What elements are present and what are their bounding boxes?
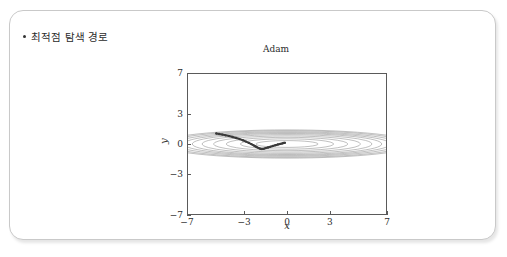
path-step-marker <box>228 135 230 137</box>
slide-card: 최적점 탐색 경로 Adam −7−3037−7−3037 x y <box>9 10 496 240</box>
path-step-marker <box>221 133 223 135</box>
y-tick-mark <box>187 73 191 74</box>
path-step-marker <box>238 138 240 140</box>
path-step-marker <box>274 144 276 146</box>
y-tick-label: 3 <box>165 109 183 119</box>
y-tick-mark <box>187 114 191 115</box>
path-step-marker <box>277 143 279 145</box>
x-axis-label: x <box>187 220 387 231</box>
y-tick-label: −3 <box>165 169 183 179</box>
y-tick-label: −7 <box>165 210 183 220</box>
path-step-marker <box>279 143 281 145</box>
y-tick-label: 7 <box>165 68 183 78</box>
optimization-path <box>188 74 386 214</box>
bullet-text: 최적점 탐색 경로 <box>31 29 109 44</box>
path-step-marker <box>272 145 274 147</box>
bullet-dot-icon <box>23 35 26 38</box>
path-polyline <box>216 134 285 149</box>
bullet-line: 최적점 탐색 경로 <box>23 29 109 44</box>
plot-area <box>187 73 387 215</box>
y-tick-mark <box>187 144 191 145</box>
path-step-marker <box>218 133 220 135</box>
chart-figure: Adam −7−3037−7−3037 x y <box>156 44 396 229</box>
y-tick-mark <box>187 215 191 216</box>
path-step-marker <box>252 144 254 146</box>
path-step-marker <box>284 142 286 144</box>
path-step-marker <box>250 143 252 145</box>
chart-title: Adam <box>156 44 396 54</box>
path-step-marker <box>248 142 250 144</box>
x-tick-mark <box>387 211 388 215</box>
x-tick-mark <box>287 211 288 215</box>
y-axis-label: y <box>158 138 169 144</box>
path-step-marker <box>242 139 244 141</box>
path-step-marker <box>245 140 247 142</box>
path-step-marker <box>215 132 217 134</box>
path-step-marker <box>224 134 226 136</box>
path-step-marker <box>235 137 237 139</box>
x-tick-mark <box>244 211 245 215</box>
x-tick-mark <box>330 211 331 215</box>
path-step-marker <box>231 136 233 138</box>
path-step-marker <box>269 146 271 148</box>
y-tick-mark <box>187 174 191 175</box>
path-step-marker <box>265 147 267 149</box>
path-step-marker <box>267 146 269 148</box>
